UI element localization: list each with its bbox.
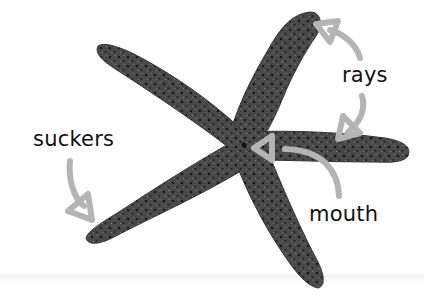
mouth-point: [242, 143, 247, 148]
suckers-arrow-head-icon: [68, 194, 92, 220]
label-mouth: mouth: [309, 204, 378, 225]
starfish-diagram: rays suckers mouth: [0, 0, 424, 295]
label-suckers: suckers: [33, 129, 114, 150]
label-rays: rays: [342, 65, 388, 86]
rays-arrow-up-head-icon: [316, 21, 338, 42]
